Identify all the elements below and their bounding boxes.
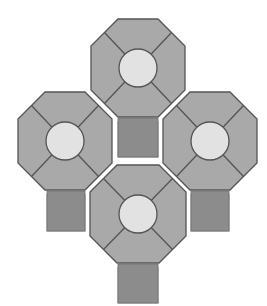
stem-front-bottom	[118, 264, 158, 303]
octagon-unit-right	[163, 92, 257, 190]
center-circle-bottom	[119, 195, 157, 233]
stem-front-left	[47, 191, 85, 231]
center-circle-top	[119, 49, 157, 87]
octagon-unit-top	[91, 19, 185, 117]
center-circle-right	[191, 122, 229, 160]
diagram-canvas	[0, 0, 267, 306]
center-circle-left	[46, 122, 84, 160]
octagon-unit-bottom	[90, 165, 186, 263]
octagon-unit-left	[18, 92, 112, 190]
octagon-diagram	[0, 0, 267, 306]
stem-front-top	[118, 118, 158, 157]
stem-front-right	[191, 191, 229, 231]
